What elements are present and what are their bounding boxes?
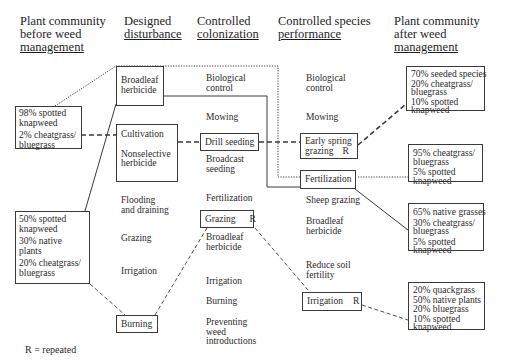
legend-repeated: R = repeated: [25, 345, 76, 355]
after-community-70-seeded: 70% seeded species 20% cheatgrass/ blueg…: [406, 66, 485, 111]
colonization-grazing-repeated: GrazingR: [200, 210, 254, 228]
before-community-98-knapweed: 98% spotted knapweed 2% cheatgrass/ blue…: [15, 106, 82, 149]
disturbance-cultivation: Cultivation Nonselective herbicide: [116, 124, 178, 182]
colonization-burning: Burning: [206, 297, 237, 307]
dashed-path-d: [358, 105, 405, 145]
header-after: Plant community after weed management: [394, 15, 480, 54]
disturbance-grazing: Grazing: [121, 234, 152, 244]
performance-biological-control: Biological control: [306, 74, 346, 93]
thin-dash-b: [155, 228, 207, 315]
repeated-marker: R: [343, 146, 349, 156]
disturbance-burning: Burning: [116, 315, 158, 333]
thin-dash-d: [362, 305, 408, 320]
solid-path-c: [355, 189, 408, 230]
disturbance-broadleaf-herbicide: Broadleaf herbicide: [116, 66, 164, 106]
performance-mowing: Mowing: [306, 113, 338, 123]
performance-early-spring-grazing-repeated: Early spring grazingR: [300, 133, 358, 159]
colonization-drill-seeding: Drill seeding: [200, 133, 259, 151]
colonization-broadcast-seeding: Broadcast seeding: [206, 155, 244, 174]
performance-fertilization: Fertilization: [300, 170, 356, 189]
thin-dash-c: [255, 228, 308, 290]
colonization-fertilization: Fertilization: [206, 194, 252, 204]
after-community-20-quackgrass: 20% quackgrass 50% native plants 20% blu…: [408, 282, 485, 330]
performance-irrigation-repeated: IrrigationR: [302, 292, 362, 311]
after-community-95-cheatgrass: 95% cheatgrass/ bluegrass 5% spotted kna…: [408, 144, 483, 182]
before-community-50-knapweed: 50% spotted knapweed 30% native plants 2…: [15, 211, 90, 284]
colonization-irrigation: Irrigation: [206, 277, 242, 287]
colonization-preventing-weed-introductions: Preventing weed introductions: [206, 318, 256, 347]
disturbance-flooding-draining: Flooding and draining: [121, 196, 169, 215]
repeated-marker: R: [353, 296, 359, 306]
repeated-marker: R: [250, 214, 256, 224]
performance-broadleaf-herbicide: Broadleaf herbicide: [306, 217, 343, 236]
performance-sheep-grazing: Sheep grazing: [306, 196, 360, 206]
solid-path-a: [85, 104, 116, 211]
colonization-mowing: Mowing: [206, 113, 238, 123]
colonization-biological-control: Biological control: [206, 74, 246, 93]
disturbance-irrigation: Irrigation: [121, 267, 157, 277]
colonization-broadleaf-herbicide: Broadleaf herbicide: [206, 233, 243, 252]
header-performance: Controlled species performance: [278, 15, 371, 41]
header-colonization: Controlled colonization: [197, 15, 259, 41]
performance-reduce-soil-fertility: Reduce soil fertility: [306, 261, 351, 280]
header-disturbance: Designed disturbance: [124, 15, 182, 41]
weed-management-diagram: Plant community before weed management D…: [0, 0, 507, 364]
header-before: Plant community before weed management: [20, 15, 106, 54]
thin-dash-a: [90, 284, 125, 315]
after-community-65-native: 65% native grasses 30% cheatgrass/ blueg…: [408, 203, 484, 251]
